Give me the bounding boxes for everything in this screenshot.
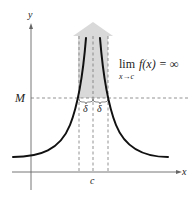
lim-word: lim — [119, 57, 135, 71]
infinite-limit-diagram: y x M c δ δ lim f(x) = ∞ x→c — [0, 0, 192, 204]
lim-expr: f(x) = ∞ — [139, 57, 178, 71]
x-axis-label: x — [182, 167, 186, 177]
limit-expression: lim f(x) = ∞ x→c — [119, 54, 178, 81]
y-axis-arrow-icon — [29, 23, 33, 29]
y-axis-label: y — [28, 10, 32, 20]
delta-label-right: δ — [97, 104, 102, 114]
c-label: c — [90, 176, 94, 186]
diagram-canvas — [0, 0, 192, 204]
m-label: M — [15, 92, 25, 104]
delta-label-left: δ — [83, 104, 88, 114]
lim-subscript: x→c — [119, 73, 178, 81]
